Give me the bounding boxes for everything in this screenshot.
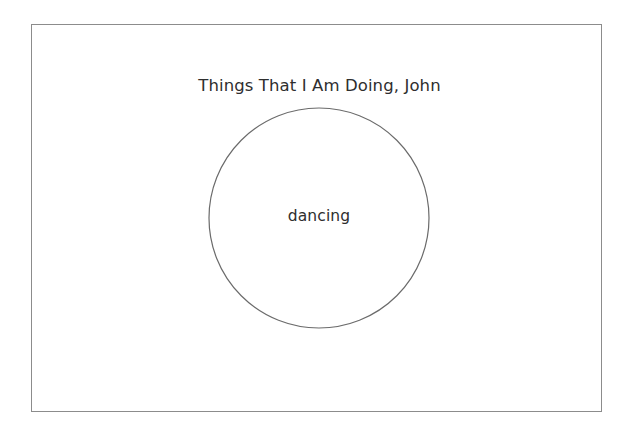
venn-set-label-dancing: dancing xyxy=(209,207,429,225)
diagram-canvas: Things That I Am Doing, John dancing xyxy=(0,0,639,437)
diagram-title: Things That I Am Doing, John xyxy=(0,76,639,95)
